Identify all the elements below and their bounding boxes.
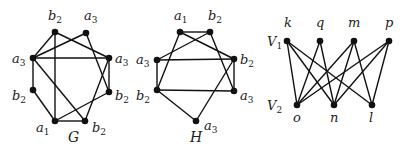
vertex-G-g1 (83, 30, 90, 37)
vertex-label-B-n: n (330, 110, 338, 125)
vertex-label-B-k: k (284, 15, 292, 30)
edge-G-g1-g5 (86, 33, 109, 92)
vertex-label-B-l: l (369, 110, 373, 125)
vertex-label-B-o: o (293, 110, 301, 125)
edge-G-g0-g3 (55, 32, 109, 58)
edge-H-h4-h6 (157, 90, 196, 121)
edge-H-h1-h2 (157, 32, 210, 60)
edge-H-h4-h5 (157, 90, 234, 91)
vertex-G-g7 (82, 118, 89, 125)
partition-label-1: V1 (267, 34, 282, 51)
vertex-label-G-g4: b2 (12, 88, 26, 105)
edge-G-g1-g2 (33, 33, 86, 58)
vertex-label-G-g2: a3 (12, 51, 26, 68)
labels-layer: b2a3a3a3b2b2a1b2Ga1b2a3b2b2a3a3HkqmponlV… (12, 8, 394, 145)
vertex-label-G-g5: b2 (115, 88, 129, 105)
vertex-label-H-h2: a3 (136, 52, 150, 69)
graph-diagram: b2a3a3a3b2b2a1b2Ga1b2a3b2b2a3a3HkqmponlV… (0, 0, 405, 150)
vertex-B-n (331, 102, 338, 109)
vertex-label-G-g1: a3 (84, 8, 98, 25)
vertex-G-g2 (30, 55, 37, 62)
graph-name-G: G (68, 129, 79, 145)
vertex-G-g5 (106, 89, 113, 96)
edge-H-h1-h5 (210, 32, 234, 91)
edge-G-g3-g7 (85, 58, 109, 121)
edge-B-m-o (297, 41, 354, 105)
edge-B-m-l (354, 41, 372, 105)
graph-name-H: H (189, 129, 203, 145)
vertex-label-H-h0: a1 (174, 8, 188, 25)
partition-label-2: V2 (267, 98, 282, 115)
vertex-G-g4 (30, 87, 37, 94)
vertex-B-q (317, 38, 324, 45)
vertex-label-B-p: p (385, 15, 394, 30)
vertex-label-H-h3: b2 (240, 52, 254, 69)
vertex-B-m (351, 38, 358, 45)
vertex-label-G-g7: b2 (92, 120, 106, 137)
edge-B-k-o (287, 41, 297, 105)
vertex-label-B-m: m (348, 15, 360, 30)
vertex-label-G-g3: a3 (115, 51, 129, 68)
vertex-label-H-h4: b2 (136, 88, 150, 105)
vertex-G-g3 (106, 55, 113, 62)
vertex-B-l (369, 102, 376, 109)
vertex-H-h2 (154, 57, 161, 64)
edge-H-h2-h3 (157, 59, 234, 60)
vertex-label-B-q: q (316, 15, 324, 30)
vertex-label-H-h5: a3 (240, 88, 254, 105)
edge-H-h0-h3 (180, 32, 234, 59)
vertex-H-h0 (177, 29, 184, 36)
vertex-H-h6 (193, 118, 200, 125)
edge-G-g0-g2 (33, 32, 55, 58)
vertex-label-H-h6: a3 (204, 118, 218, 135)
vertex-H-h3 (231, 56, 238, 63)
vertex-G-g0 (52, 29, 59, 36)
vertex-H-h1 (207, 29, 214, 36)
edge-G-g2-g7 (33, 58, 85, 121)
vertex-B-k (284, 38, 291, 45)
vertex-H-h5 (231, 88, 238, 95)
vertex-label-G-g0: b2 (48, 8, 62, 25)
vertex-label-H-h1: b2 (208, 8, 222, 25)
vertex-label-G-g6: a1 (36, 120, 50, 137)
vertex-G-g6 (52, 118, 59, 125)
edge-G-g4-g6 (33, 90, 55, 121)
edge-H-h0-h4 (157, 32, 180, 90)
vertex-B-o (294, 102, 301, 109)
vertex-B-p (386, 38, 393, 45)
vertex-H-h4 (154, 87, 161, 94)
